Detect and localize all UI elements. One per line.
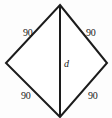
label-side-top-right: 90 bbox=[86, 28, 96, 38]
label-side-bottom-left: 90 bbox=[21, 91, 31, 101]
label-diagonal-d: d bbox=[64, 59, 69, 69]
label-side-top-left: 90 bbox=[23, 28, 33, 38]
label-side-bottom-right: 90 bbox=[88, 91, 98, 101]
rhombus-diagram: 90 90 90 90 d bbox=[0, 0, 112, 118]
